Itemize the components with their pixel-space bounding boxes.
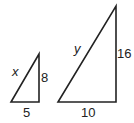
large-hypotenuse-label: y bbox=[73, 41, 82, 56]
small-base-label: 5 bbox=[23, 105, 30, 120]
small-vertical-label: 8 bbox=[41, 70, 48, 85]
large-base-label: 10 bbox=[81, 105, 95, 120]
large-right-triangle bbox=[58, 6, 116, 102]
large-vertical-label: 16 bbox=[117, 46, 131, 61]
small-hypotenuse-label: x bbox=[11, 64, 19, 79]
similar-triangles-diagram: x 8 5 y 16 10 bbox=[0, 0, 134, 123]
